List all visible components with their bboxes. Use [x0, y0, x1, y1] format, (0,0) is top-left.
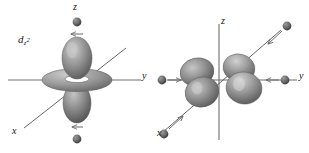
- charge-top-ball: [73, 18, 82, 27]
- axis-label-y-left: y: [142, 71, 146, 81]
- charge-upper-right-ball: [283, 22, 292, 31]
- axis-label-y-right: y: [299, 71, 303, 81]
- charge-lower-left-arrow: [169, 116, 183, 129]
- orbital-figure: dz2 z y x: [0, 0, 309, 153]
- dx2y2-highlight-right: [233, 77, 245, 91]
- axis-label-x-right: x: [157, 128, 161, 138]
- dz2-diagram: [0, 0, 155, 153]
- charge-upper-right-arrow: [268, 31, 282, 44]
- charge-bottom-ball: [73, 135, 82, 144]
- charge-right-ball: [281, 76, 290, 85]
- charge-left-ball: [158, 76, 167, 85]
- dx2y2-highlight-left: [192, 82, 203, 95]
- axis-label-z-right: z: [221, 16, 225, 26]
- dz2-lobe-top: [62, 37, 92, 79]
- dx2y2-diagram: [155, 0, 309, 153]
- axis-x-line: [163, 30, 281, 132]
- panel-dz2: dz2 z y x: [0, 0, 155, 153]
- panel-dx2y2: dx2-y2: [155, 0, 309, 153]
- axis-label-z-left: z: [73, 2, 77, 12]
- orbital-label-dz2: dz2: [18, 33, 30, 46]
- axis-label-x-left: x: [12, 126, 16, 136]
- dz2-lobe-top-highlight: [67, 42, 78, 58]
